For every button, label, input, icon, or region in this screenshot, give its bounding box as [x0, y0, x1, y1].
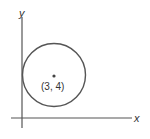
x-axis-label: x [133, 112, 140, 124]
center-label: (3, 4) [41, 81, 64, 92]
coordinate-plot: y x (3, 4) [0, 0, 150, 139]
center-point [52, 74, 55, 77]
y-axis-label: y [18, 7, 26, 19]
